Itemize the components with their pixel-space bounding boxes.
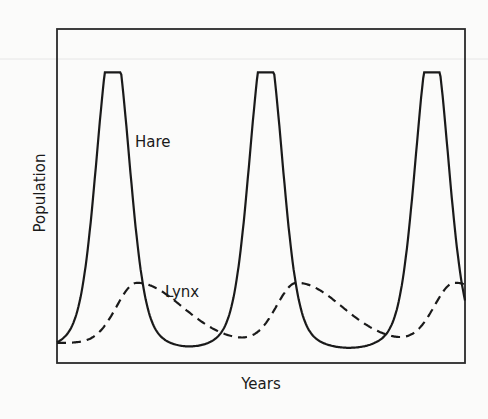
y-axis-label: Population [31, 154, 49, 233]
chart: Hare Lynx Years Population [0, 0, 488, 419]
lynx-label: Lynx [165, 283, 199, 301]
hare-label: Hare [135, 133, 171, 151]
x-axis-label: Years [240, 375, 281, 393]
hare-curve [57, 72, 465, 347]
plot-frame [57, 29, 465, 363]
lynx-curve [57, 283, 465, 343]
